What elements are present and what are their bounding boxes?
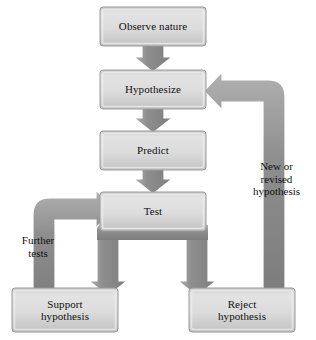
edge-hypothesize-to-predict	[134, 107, 172, 133]
node-hypothesize[interactable]	[100, 70, 206, 109]
edge-predict-to-test	[134, 168, 172, 194]
edge-observe-to-hypothesize	[134, 44, 172, 72]
flowchart-diagram: Observe nature Hypothesize Predict Test …	[0, 0, 316, 340]
edge-label-further-tests: Further tests	[0, 234, 76, 259]
edge-label-new-or-revised-hypothesis: New or revised hypothesis	[237, 160, 316, 198]
node-test[interactable]	[100, 192, 206, 231]
node-observe-nature[interactable]	[100, 7, 206, 46]
node-predict[interactable]	[100, 131, 206, 170]
node-support-hypothesis[interactable]	[12, 288, 118, 332]
node-reject-hypothesis[interactable]	[189, 288, 295, 332]
